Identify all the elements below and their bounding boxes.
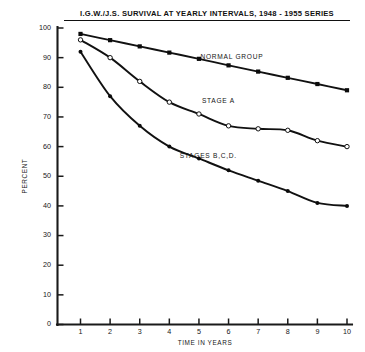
- data-point-marker: [315, 138, 319, 142]
- x-tick-label: 2: [108, 327, 112, 336]
- series-label: STAGES B,C,D.: [180, 152, 237, 159]
- data-point-marker: [167, 100, 171, 104]
- y-tick-label: 80: [43, 82, 51, 91]
- y-tick-label: 90: [43, 53, 51, 62]
- data-point-marker: [108, 94, 112, 98]
- chart-title: I.G.W./J.S. SURVIVAL AT YEARLY INTERVALS…: [80, 9, 334, 18]
- survival-chart: I.G.W./J.S. SURVIVAL AT YEARLY INTERVALS…: [0, 0, 365, 352]
- data-point-marker: [227, 168, 231, 172]
- data-point-marker: [197, 112, 201, 116]
- y-axis-ticks: 0102030405060708090100: [39, 23, 64, 329]
- x-tick-label: 3: [138, 327, 142, 336]
- series-label: NORMAL GROUP: [200, 53, 263, 60]
- data-point-marker: [226, 124, 230, 128]
- data-point-marker: [256, 127, 260, 131]
- data-point-marker: [256, 69, 260, 73]
- series-annotations: NORMAL GROUPSTAGE ASTAGES B,C,D.: [180, 53, 264, 159]
- series-line: [81, 34, 348, 90]
- y-tick-label: 20: [43, 260, 51, 269]
- data-point-marker: [256, 179, 260, 183]
- data-point-marker: [138, 44, 142, 48]
- data-point-marker: [78, 38, 82, 42]
- data-point-marker: [286, 189, 290, 193]
- y-tick-label: 60: [43, 142, 51, 151]
- data-point-marker: [315, 82, 319, 86]
- data-point-marker: [345, 204, 349, 208]
- y-tick-label: 100: [39, 23, 51, 32]
- x-tick-label: 4: [167, 327, 171, 336]
- x-tick-label: 10: [343, 327, 351, 336]
- y-tick-label: 40: [43, 201, 51, 210]
- x-tick-label: 5: [197, 327, 201, 336]
- x-axis-ticks: 12345678910: [79, 319, 352, 337]
- x-tick-label: 7: [256, 327, 260, 336]
- chart-canvas: I.G.W./J.S. SURVIVAL AT YEARLY INTERVALS…: [0, 0, 365, 352]
- series-3: [79, 50, 350, 208]
- data-point-marker: [345, 144, 349, 148]
- data-point-marker: [167, 145, 171, 149]
- y-tick-label: 0: [47, 319, 51, 328]
- x-tick-label: 8: [286, 327, 290, 336]
- x-axis-label: TIME IN YEARS: [178, 339, 233, 346]
- data-point-marker: [108, 38, 112, 42]
- data-point-marker: [345, 88, 349, 92]
- data-point-marker: [79, 50, 83, 54]
- data-point-marker: [138, 124, 142, 128]
- x-tick-label: 9: [315, 327, 319, 336]
- series-label: STAGE A: [202, 97, 235, 104]
- data-point-marker: [286, 128, 290, 132]
- x-tick-label: 1: [79, 327, 83, 336]
- data-point-marker: [315, 201, 319, 205]
- y-tick-label: 70: [43, 112, 51, 121]
- series-1: [78, 32, 349, 93]
- data-point-marker: [108, 55, 112, 59]
- data-point-marker: [226, 63, 230, 67]
- data-point-marker: [78, 32, 82, 36]
- y-tick-label: 10: [43, 290, 51, 299]
- y-axis-label: PERCENT: [21, 159, 28, 194]
- x-tick-label: 6: [227, 327, 231, 336]
- series-line: [81, 52, 348, 206]
- data-point-marker: [286, 76, 290, 80]
- y-tick-label: 50: [43, 171, 51, 180]
- data-point-marker: [167, 51, 171, 55]
- data-point-marker: [138, 79, 142, 83]
- y-tick-label: 30: [43, 230, 51, 239]
